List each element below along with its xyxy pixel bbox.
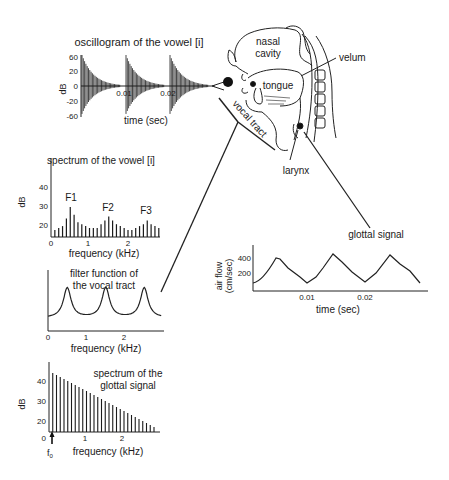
f0-label: f0: [47, 448, 54, 459]
formant-f2: F2: [102, 202, 114, 213]
oscillogram-xlabel: time (sec): [124, 115, 168, 126]
vowel-ytick: 20: [39, 221, 48, 230]
vowel-xlabel: frequency (kHz): [69, 248, 140, 259]
glottal-signal-xtick: 0.01: [299, 293, 315, 302]
label-tongue: tongue: [263, 80, 294, 91]
connector-to-glottal: [304, 132, 370, 228]
oscillogram-title: oscillogram of the vowel [i]: [75, 36, 204, 48]
glottal-ytick: 20: [37, 417, 46, 426]
glottal-spectrum-title-1: spectrum of the: [94, 368, 163, 379]
glottal-signal-ylabel-2: (cm/sec): [224, 259, 234, 294]
vowel-spectrum-chart: spectrum of the vowel [i] dB 40 30 20 0 …: [17, 155, 160, 259]
lips-outline: [242, 74, 248, 93]
vowel-ytick: 40: [39, 183, 48, 192]
filter-xtick: 0: [46, 333, 51, 342]
glottal-xtick: 2: [120, 434, 125, 443]
spine-outline: [316, 36, 336, 138]
vowel-xtick: 0: [49, 239, 54, 248]
glottal-spectrum-xlabel: frequency (kHz): [73, 446, 144, 457]
formant-f1: F1: [65, 192, 77, 203]
oscillogram-ytick: 0: [74, 82, 79, 91]
glottal-signal-xtick: 0.02: [357, 293, 373, 302]
filter-xlabel: frequency (kHz): [71, 343, 142, 354]
glottal-spectrum-chart: spectrum of the glottal signal dB 40 30 …: [17, 362, 163, 459]
oscillogram-ytick: 60: [69, 53, 78, 62]
oscillogram-chart: oscillogram of the vowel [i] dB 60 20 0 …: [58, 36, 233, 126]
formant-f3: F3: [140, 205, 152, 216]
label-larynx: larynx: [283, 165, 310, 176]
glottal-signal-xlabel: time (sec): [316, 304, 360, 315]
label-cavity: cavity: [255, 48, 281, 59]
oscillogram-ylabel: dB: [58, 83, 68, 94]
filter-function-chart: filter function of the vocal tract 0 1 2…: [46, 268, 164, 354]
glottal-ytick: 40: [37, 377, 46, 386]
glottal-spectrum-title-2: glottal signal: [100, 380, 156, 391]
filter-curve: [48, 287, 161, 316]
vertebra: [315, 70, 325, 80]
microphone-cable: [212, 82, 224, 86]
filter-title-1: filter function of: [70, 268, 138, 279]
label-velum: velum: [339, 52, 366, 63]
filter-xtick: 1: [84, 333, 89, 342]
glottal-signal-waveform: [253, 254, 420, 283]
microphone-icon: [223, 77, 233, 87]
oscillogram-ytick: 20: [69, 67, 78, 76]
diagram-canvas: oscillogram of the vowel [i] dB 60 20 0 …: [0, 0, 449, 480]
glottal-signal-ytick: 400: [238, 254, 252, 263]
vowel-xtick: 2: [126, 239, 131, 248]
glottal-xtick: 0: [42, 434, 47, 443]
filter-xtick: 2: [122, 333, 127, 342]
vowel-xtick: 1: [86, 239, 91, 248]
label-nasal: nasal: [256, 36, 280, 47]
oscillogram-ytick: -60: [66, 112, 78, 121]
vowel-ytick: 30: [39, 202, 48, 211]
vowel-spectrum-title: spectrum of the vowel [i]: [47, 155, 155, 166]
glottal-ytick: 30: [37, 397, 46, 406]
oscillogram-waveform: [82, 55, 208, 114]
glottal-signal-ytick: 200: [238, 269, 252, 278]
label-vocal-tract: vocal tract: [231, 98, 270, 139]
glottal-xtick: 1: [83, 434, 88, 443]
glottal-signal-title: glottal signal: [348, 229, 404, 240]
vowel-spectrum-ylabel: dB: [17, 196, 27, 207]
glottal-signal-chart: glottal signal air flow (cm/sec) 400 200…: [214, 229, 428, 315]
oscillogram-ytick: -20: [66, 97, 78, 106]
glottal-spectrum-ylabel: dB: [17, 398, 27, 409]
glottal-signal-ylabel-1: air flow: [214, 261, 224, 290]
